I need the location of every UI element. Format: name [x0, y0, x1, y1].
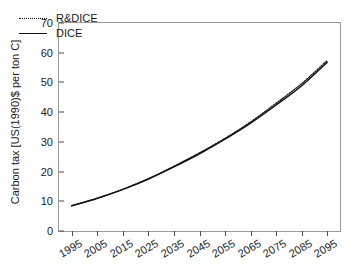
- x-tick-label-text: 2085: [286, 237, 313, 260]
- x-tick-mark: [123, 231, 124, 236]
- legend-item-dice: DICE: [19, 27, 139, 39]
- legend-label-rdice: R&DICE: [56, 12, 98, 24]
- x-tick-label-text: 2025: [133, 237, 160, 260]
- plot-area: 0102030405060701995200520152025203520452…: [58, 22, 341, 232]
- x-tick-mark: [148, 231, 149, 236]
- series-line-r-dice: [72, 60, 327, 205]
- chart-figure: Carbon tax [US(1990)$ per ton C] 0102030…: [0, 0, 357, 278]
- y-tick-label: 20: [41, 166, 53, 178]
- chart-legend: R&DICE DICE: [19, 12, 139, 42]
- x-tick-mark: [174, 231, 175, 236]
- y-tick-label: 50: [41, 76, 53, 88]
- y-tick-mark: [59, 201, 64, 202]
- x-tick-mark: [72, 231, 73, 236]
- x-tick-mark: [327, 231, 328, 236]
- y-tick-label: 60: [41, 47, 53, 59]
- x-tick-label-text: 2045: [184, 237, 211, 260]
- x-tick-label-text: 2005: [82, 237, 109, 260]
- chart-curves: [59, 23, 342, 233]
- y-tick-label: 0: [47, 225, 53, 237]
- y-tick-mark: [59, 112, 64, 113]
- x-tick-mark: [200, 231, 201, 236]
- y-tick-label: 10: [41, 195, 53, 207]
- x-tick-mark: [302, 231, 303, 236]
- x-tick-mark: [97, 231, 98, 236]
- x-tick-label-text: 2035: [159, 237, 186, 260]
- x-tick-mark: [276, 231, 277, 236]
- y-tick-mark: [59, 82, 64, 83]
- x-tick-label-text: 2095: [312, 237, 339, 260]
- x-tick-label-text: 2065: [235, 237, 262, 260]
- legend-item-rdice: R&DICE: [19, 12, 139, 24]
- legend-label-dice: DICE: [56, 27, 82, 39]
- y-tick-mark: [59, 171, 64, 172]
- x-tick-mark: [225, 231, 226, 236]
- y-tick-label: 40: [41, 106, 53, 118]
- x-tick-mark: [251, 231, 252, 236]
- x-tick-label-text: 2015: [108, 237, 135, 260]
- x-tick-label-text: 2055: [210, 237, 237, 260]
- legend-line-solid-icon: [19, 28, 47, 38]
- y-tick-label: 30: [41, 136, 53, 148]
- y-tick-mark: [59, 52, 64, 53]
- y-tick-mark: [59, 141, 64, 142]
- y-tick-mark: [59, 231, 64, 232]
- series-line-dice: [72, 62, 327, 206]
- legend-line-dotted-icon: [19, 13, 47, 23]
- x-tick-label-text: 2075: [261, 237, 288, 260]
- x-tick-label-text: 1995: [57, 237, 84, 260]
